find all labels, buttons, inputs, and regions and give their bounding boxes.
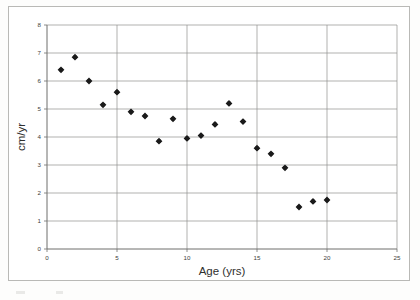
scatter-datapoints [58, 54, 331, 211]
x-tick-label: 0 [45, 254, 49, 261]
data-point [226, 100, 233, 107]
scatter-chart: 012345678 0510152025 cm/yr Age (yrs) [9, 7, 409, 280]
data-point [114, 89, 121, 96]
y-tick-label: 5 [38, 105, 42, 112]
chart-frame: 012345678 0510152025 cm/yr Age (yrs) [8, 6, 410, 281]
data-point [254, 145, 261, 152]
data-point-diamond [254, 145, 261, 152]
data-point-diamond [226, 100, 233, 107]
data-point-diamond [198, 132, 205, 139]
y-axis-tick-labels: 012345678 [38, 21, 42, 252]
y-tick-label: 0 [38, 245, 42, 252]
x-tick-label: 25 [394, 254, 401, 261]
data-point-diamond [142, 113, 149, 120]
data-point [58, 66, 65, 73]
data-point-diamond [296, 204, 303, 211]
data-point-diamond [86, 78, 93, 85]
data-point [170, 115, 177, 122]
x-tick-label: 15 [254, 254, 261, 261]
data-point-diamond [282, 164, 289, 171]
data-point-diamond [114, 89, 121, 96]
y-tick-label: 3 [38, 161, 42, 168]
data-point [156, 138, 163, 145]
data-point [296, 204, 303, 211]
y-tick-label: 6 [38, 77, 42, 84]
x-tick-label: 10 [184, 254, 191, 261]
data-point-diamond [184, 135, 191, 142]
data-point [72, 54, 79, 61]
data-point-diamond [170, 115, 177, 122]
data-point-diamond [58, 66, 65, 73]
data-point [240, 118, 247, 125]
scan-artifact-left [16, 291, 25, 294]
x-axis-title: Age (yrs) [199, 265, 246, 277]
x-axis-tick-labels: 0510152025 [45, 254, 401, 261]
data-point [86, 78, 93, 85]
data-point-diamond [268, 150, 275, 157]
data-point [212, 121, 219, 128]
data-point [198, 132, 205, 139]
data-point [310, 198, 317, 205]
data-point-diamond [100, 101, 107, 108]
data-point [282, 164, 289, 171]
y-tick-label: 7 [38, 49, 42, 56]
x-tick-label: 20 [324, 254, 331, 261]
data-point [100, 101, 107, 108]
figure-container: 012345678 0510152025 cm/yr Age (yrs) [0, 0, 420, 300]
horizontal-gridlines [47, 25, 397, 221]
y-tick-label: 2 [38, 189, 42, 196]
data-point-diamond [240, 118, 247, 125]
data-point-diamond [212, 121, 219, 128]
data-point [128, 108, 135, 115]
data-point-diamond [72, 54, 79, 61]
x-tick-label: 5 [115, 254, 119, 261]
data-point-diamond [310, 198, 317, 205]
scan-artifact-right [56, 291, 63, 294]
y-tick-label: 1 [38, 217, 42, 224]
y-tick-label: 4 [38, 133, 42, 140]
data-point-diamond [128, 108, 135, 115]
data-point [184, 135, 191, 142]
data-point [268, 150, 275, 157]
y-axis-title: cm/yr [15, 123, 27, 151]
data-point [142, 113, 149, 120]
data-point-diamond [324, 197, 331, 204]
data-point-diamond [156, 138, 163, 145]
data-point [324, 197, 331, 204]
y-tick-label: 8 [38, 21, 42, 28]
